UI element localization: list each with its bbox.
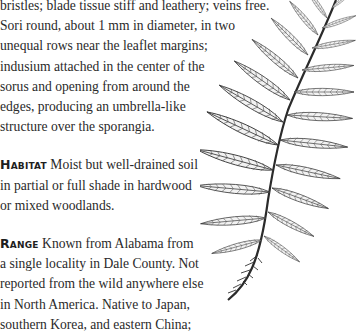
description-line: unequal rows near the leaflet margins;: [0, 36, 232, 56]
range-line: Known from Alabama from: [42, 236, 193, 251]
description-line: Sori round, about 1 mm in diameter, in t…: [0, 16, 232, 36]
habitat-line: or mixed woodlands.: [0, 196, 232, 216]
species-text-column: bristles; blade tissue stiff and leather…: [0, 0, 232, 335]
range-line: reported from the wild anywhere else: [0, 274, 232, 294]
habitat-line: Moist but well-drained soil: [50, 157, 198, 172]
habitat-label: Habitat: [0, 157, 47, 172]
range-label: Range: [0, 236, 39, 251]
description-line: edges, producing an umbrella-like: [0, 97, 232, 117]
fern-frond-illustration: [200, 0, 360, 305]
description-line: bristles; blade tissue stiff and leather…: [0, 0, 232, 16]
range-line: in North America. Native to Japan,: [0, 295, 232, 315]
range-line: a single locality in Dale County. Not: [0, 254, 232, 274]
habitat-line: in partial or full shade in hardwood: [0, 176, 232, 196]
range-line: southern Korea, and eastern China;: [0, 315, 232, 335]
range-paragraph: Range Known from Alabama from a single l…: [0, 234, 232, 335]
description-paragraph: bristles; blade tissue stiff and leather…: [0, 0, 232, 137]
description-line: structure over the sporangia.: [0, 117, 232, 137]
description-line: sorus and opening from around the: [0, 77, 232, 97]
description-line: indusium attached in the center of the: [0, 57, 232, 77]
habitat-paragraph: Habitat Moist but well-drained soil in p…: [0, 155, 232, 216]
